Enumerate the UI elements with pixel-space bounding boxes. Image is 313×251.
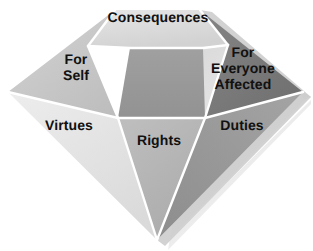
ethics-diamond-diagram: Consequences For Self For Everyone Affec… bbox=[0, 0, 313, 251]
diamond-graphic bbox=[0, 0, 313, 251]
facet-crown-center bbox=[118, 48, 205, 118]
